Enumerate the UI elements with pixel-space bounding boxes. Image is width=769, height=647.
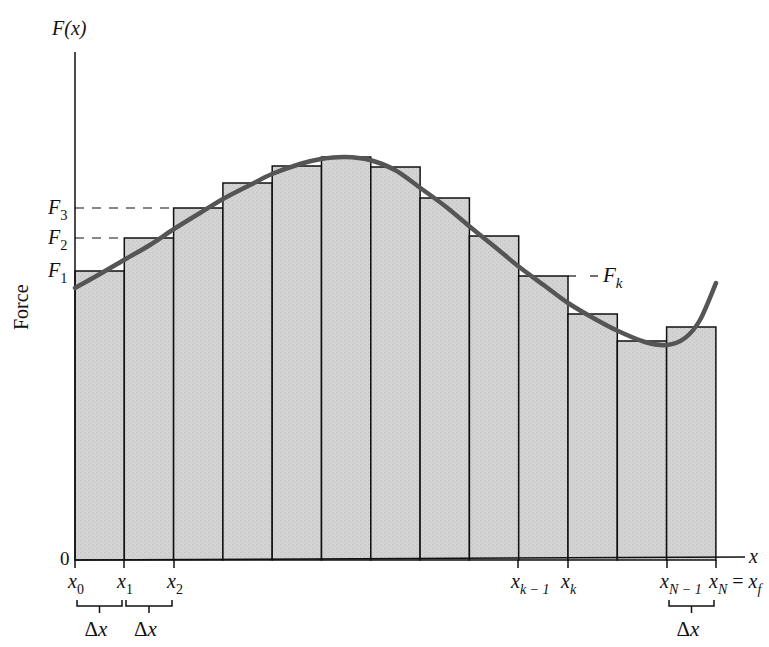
x-tick-x0: x0 <box>67 570 84 597</box>
delta-x-bracket-1: Δx <box>77 600 122 641</box>
fk-label-group: Fk <box>568 263 623 291</box>
svg-text:Δx: Δx <box>677 617 701 641</box>
y-tick-labels: F1F2F3 <box>47 196 67 286</box>
bar-5 <box>272 166 321 560</box>
delta-x-bracket-2: Δx <box>126 600 172 641</box>
y-axis-label: F(x) <box>51 17 87 40</box>
x-tick-xN: xN = xf <box>708 570 763 597</box>
x-tick-xk-1: xk − 1 <box>510 570 550 597</box>
bar-10 <box>519 276 568 560</box>
dashed-guides <box>75 208 174 238</box>
delta-x-bracket-3: Δx <box>669 600 714 641</box>
bar-7 <box>371 167 420 560</box>
bar-12 <box>617 341 666 560</box>
rectangle-bars <box>75 157 716 560</box>
bar-6 <box>322 157 371 560</box>
bar-4 <box>223 183 272 560</box>
fk-label: Fk <box>602 263 623 291</box>
y-tick-F2: F2 <box>47 226 67 253</box>
x-tick-xk: xk <box>560 570 577 597</box>
bar-1 <box>75 271 124 560</box>
y-axis-title: Force <box>10 284 32 330</box>
x-tick-xN-1: xN − 1 <box>659 570 702 597</box>
x-tick-x1: x1 <box>116 570 133 597</box>
bar-9 <box>469 236 518 560</box>
x-tick-x2: x2 <box>166 570 183 597</box>
svg-text:Δx: Δx <box>134 617 158 641</box>
x-axis-label: x <box>748 545 758 567</box>
origin-label: 0 <box>60 548 70 569</box>
bar-3 <box>174 208 223 560</box>
diagram-canvas: F(x) Force 0 x F1F2F3 x0x1x2xk − 1xkxN −… <box>0 0 769 647</box>
delta-x-brackets: ΔxΔxΔx <box>77 600 714 641</box>
riemann-sum-force-diagram: F(x) Force 0 x F1F2F3 x0x1x2xk − 1xkxN −… <box>0 0 769 647</box>
bar-2 <box>124 238 173 560</box>
y-tick-F1: F1 <box>47 259 67 286</box>
bar-11 <box>568 314 617 560</box>
bar-8 <box>420 198 469 560</box>
svg-text:Δx: Δx <box>85 617 109 641</box>
bar-13 <box>667 327 716 560</box>
x-tick-labels: x0x1x2xk − 1xkxN − 1xN = xf <box>67 560 763 597</box>
y-tick-F3: F3 <box>47 196 67 223</box>
